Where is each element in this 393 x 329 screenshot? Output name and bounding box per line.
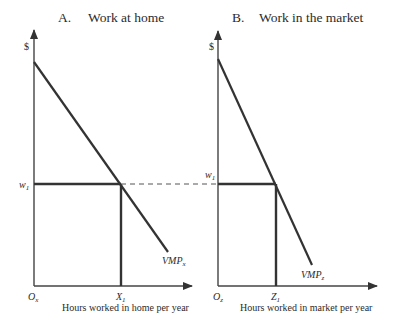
x-axis-label-a: Hours worked in home per year	[62, 302, 190, 313]
y-label-a: $	[24, 41, 29, 52]
x-axis-label-b: Hours worked in market per year	[240, 302, 373, 313]
panel-b-title: Work in the market	[259, 10, 364, 25]
wage-label-b: w1	[205, 169, 215, 182]
origin-label-a: Ox	[28, 291, 39, 304]
vmp-z-label: VMPz	[301, 269, 325, 282]
panel-work-at-home: A. Work at home $ w1 Ox X1 VMPx Hours wo…	[19, 10, 218, 313]
panel-work-in-market: B. Work in the market $ w1 Oz Z1 VMPz Ho…	[205, 10, 377, 313]
origin-label-b: Oz	[213, 291, 223, 304]
vmp-x-curve	[34, 62, 168, 252]
panel-b-letter: B.	[232, 10, 244, 25]
vmp-z-curve	[218, 59, 312, 265]
wage-label-a: w1	[19, 179, 29, 192]
panel-a-letter: A.	[58, 10, 71, 25]
vmp-x-label: VMPx	[162, 255, 187, 268]
panel-a-title: Work at home	[88, 10, 164, 25]
labor-allocation-diagram: A. Work at home $ w1 Ox X1 VMPx Hours wo…	[0, 0, 393, 329]
y-label-b: $	[209, 41, 214, 52]
